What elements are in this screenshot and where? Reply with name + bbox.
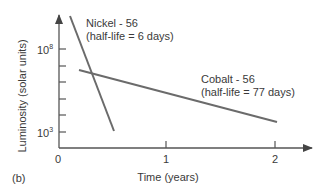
x-ticks <box>166 141 275 148</box>
y-ticks <box>59 49 66 132</box>
x-tick-label-2: 2 <box>272 153 278 165</box>
y-tick-label-1e8: 108 <box>37 43 53 56</box>
y-tick-label-1e3: 103 <box>37 126 53 139</box>
nickel-56-label: Nickel - 56 <box>86 17 138 29</box>
y-axis-label: Luminosity (solar units) <box>16 39 28 152</box>
nickel-56-half-life: (half-life = 6 days) <box>86 30 174 42</box>
panel-label: (b) <box>12 172 25 184</box>
x-tick-label-0: 0 <box>55 153 61 165</box>
x-axis-label: Time (years) <box>137 171 198 183</box>
cobalt-56-label: Cobalt - 56 <box>201 73 255 85</box>
x-tick-label-1: 1 <box>163 153 169 165</box>
cobalt-56-half-life: (half-life = 77 days) <box>201 86 295 98</box>
chart: 108 103 0 1 2 Time (years) Luminosity (s… <box>0 0 329 194</box>
